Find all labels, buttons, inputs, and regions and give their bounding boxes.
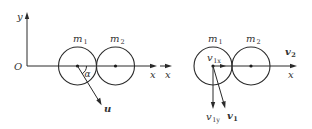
collision-diagram: y x O m1 m2 α u x x [0, 0, 312, 129]
ball-m2-center [114, 64, 117, 67]
v1y-label: v1y [206, 111, 220, 124]
v1x-label: v1x [207, 52, 221, 65]
x-axis-left-stub-arrowhead [165, 64, 172, 68]
ball-m1-label: m1 [73, 33, 88, 46]
y-axis-label: y [16, 11, 23, 22]
right-x-axis-label: x [288, 69, 294, 80]
right-panel: x x m1 m2 v1x v1y v1 v2 [160, 33, 297, 124]
velocity-u-arrowhead [96, 98, 101, 106]
x-axis-label: x [150, 69, 156, 80]
angle-alpha-label: α [85, 69, 91, 79]
origin-label: O [14, 61, 22, 72]
x-axis-arrowhead [150, 64, 157, 68]
x-axis-left-stub-label: x [165, 69, 171, 80]
left-panel: y x O m1 m2 α u [14, 11, 157, 114]
v1-label: v1 [227, 110, 238, 123]
ball-m2-label: m2 [110, 33, 125, 46]
v2-label: v2 [285, 46, 296, 59]
v1-arrowhead [221, 101, 225, 108]
y-axis-arrowhead [25, 12, 29, 19]
right-ball-m1-label: m1 [208, 33, 223, 46]
right-ball-m2-label: m2 [246, 33, 261, 46]
right-x-axis-arrowhead [290, 64, 297, 68]
v1-vector [213, 66, 224, 103]
right-ball-m2-center [249, 64, 252, 67]
velocity-u-label: u [104, 103, 111, 114]
v1y-arrowhead [211, 102, 215, 109]
